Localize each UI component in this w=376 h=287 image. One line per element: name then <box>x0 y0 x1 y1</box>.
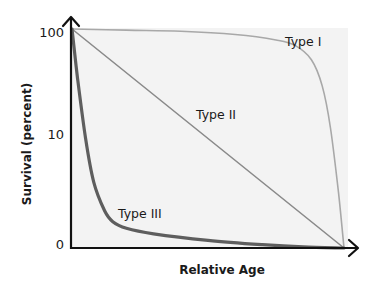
series-label-type-i: Type I <box>284 34 321 49</box>
y-axis-title: Survival (percent) <box>20 83 34 205</box>
x-axis-title: Relative Age <box>179 263 265 277</box>
survivorship-chart: 100 10 0 Survival (percent) Relative Age… <box>0 0 376 287</box>
y-tick-label-10: 10 <box>47 127 64 142</box>
series-label-type-ii: Type II <box>195 107 236 122</box>
plot-background <box>72 28 348 248</box>
y-tick-label-0: 0 <box>56 237 64 252</box>
series-label-type-iii: Type III <box>117 206 162 221</box>
y-tick-label-100: 100 <box>39 25 64 40</box>
